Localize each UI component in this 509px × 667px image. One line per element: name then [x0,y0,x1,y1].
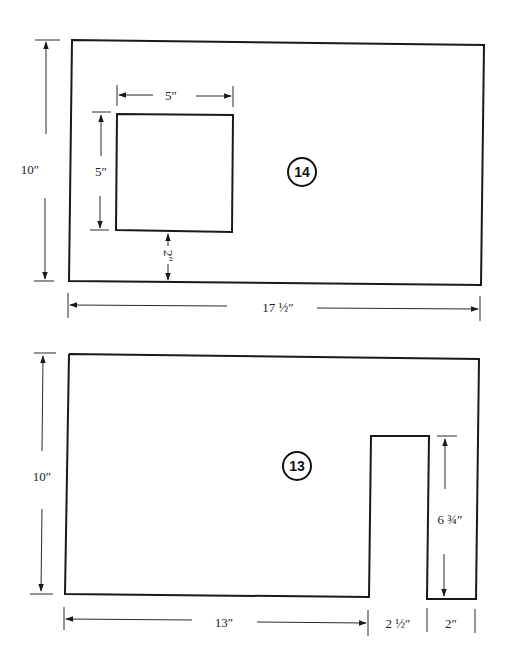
dim-slot-depth: 6 ¾″ [437,436,462,596]
panel-14: 10″ 5″ 5″ 2″ 1 [21,40,484,321]
panel-13-badge: 13 [283,452,311,480]
panel-14-badge: 14 [288,158,316,186]
panel-14-square-cutout [116,114,233,232]
slot-depth-label: 6 ¾″ [438,512,463,527]
dim-panel-14-width: 17 ½″ [68,293,480,321]
cutout-offset-label: 2″ [161,250,176,262]
diagram-canvas: 10″ 5″ 5″ 2″ 1 [0,0,509,667]
slot-width-label: 2 ½″ [386,616,411,631]
dim-panel-13-bottom: 13″ 2 ½″ 2″ [64,607,475,636]
panel-13-outline [65,354,479,599]
dim-cutout-bottom-offset: 2″ [161,234,176,280]
cutout-width-label: 5″ [165,88,177,103]
panel-13-badge-label: 13 [289,458,305,474]
panel-14-badge-label: 14 [294,164,310,180]
cutout-height-label: 5″ [95,164,107,179]
panel-14-outline [69,40,484,285]
panel-13: 10″ 6 ¾″ 13″ 2 ½″ 2″ 13 [30,353,479,636]
dim-cutout-width: 5″ [117,85,233,107]
dim-panel-14-height: 10″ [21,40,60,281]
dim-cutout-height: 5″ [90,112,111,230]
panel-13-height-label: 10″ [33,469,51,484]
panel-13-left-width-label: 13″ [215,615,233,630]
panel-14-width-label: 17 ½″ [262,300,293,315]
dim-panel-13-height: 10″ [30,353,56,594]
panel-13-right-width-label: 2″ [445,616,457,631]
panel-14-height-label: 10″ [21,162,39,177]
